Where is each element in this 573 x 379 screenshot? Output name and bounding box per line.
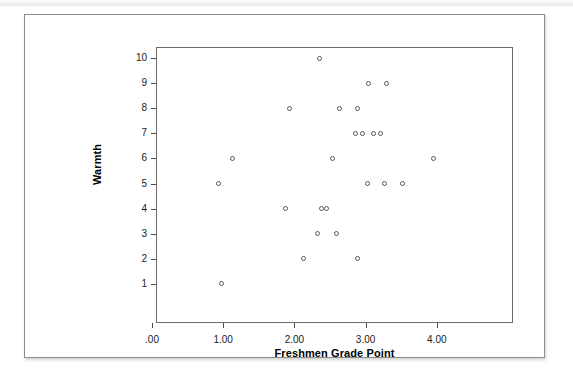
y-tick-mark: [151, 209, 156, 210]
scatter-point: [337, 106, 342, 111]
scatter-point: [230, 156, 235, 161]
y-tick-mark: [151, 133, 156, 134]
plot-frame: [156, 47, 513, 323]
scatter-point: [384, 81, 389, 86]
y-tick-label-10: 10: [113, 53, 147, 63]
x-tick-mark: [223, 323, 224, 328]
y-tick-label-text: 7: [117, 128, 147, 138]
y-tick-label-text: 9: [117, 78, 147, 88]
x-tick-label-text: 2.00: [285, 334, 304, 345]
figure-card: 12345678910 .001.002.003.004.00 Freshmen…: [24, 14, 545, 358]
x-tick-mark: [437, 323, 438, 328]
scatter-point: [371, 131, 376, 136]
y-tick-label-1: 1: [113, 279, 147, 289]
y-tick-label-7: 7: [113, 128, 147, 138]
y-tick-mark: [151, 108, 156, 109]
y-tick-label-text: 10: [117, 53, 147, 63]
x-tick-label-text: 3.00: [356, 334, 375, 345]
y-tick-label-text: 1: [117, 279, 147, 289]
scatter-point: [317, 56, 322, 61]
scatter-point: [431, 156, 436, 161]
y-axis-title: Warmth: [91, 144, 103, 185]
y-tick-mark: [151, 284, 156, 285]
y-tick-label-text: 5: [117, 179, 147, 189]
x-axis-title: Freshmen Grade Point: [156, 347, 513, 359]
scan-artifact-band: [0, 0, 573, 7]
y-tick-mark: [151, 83, 156, 84]
scatter-point: [216, 181, 221, 186]
x-tick-label-.00: .00: [122, 329, 182, 347]
y-tick-label-9: 9: [113, 78, 147, 88]
y-tick-mark: [151, 259, 156, 260]
x-tick-label-text: 1.00: [213, 334, 232, 345]
screenshot-root: 12345678910 .001.002.003.004.00 Freshmen…: [0, 0, 573, 379]
y-tick-mark: [151, 58, 156, 59]
y-tick-mark: [151, 184, 156, 185]
y-tick-label-text: 2: [117, 254, 147, 264]
y-tick-label-4: 4: [113, 204, 147, 214]
y-tick-label-2: 2: [113, 254, 147, 264]
y-tick-mark: [151, 234, 156, 235]
y-tick-mark: [151, 158, 156, 159]
y-tick-label-text: 3: [117, 229, 147, 239]
x-tick-label-3.00: 3.00: [336, 329, 396, 347]
y-tick-label-6: 6: [113, 153, 147, 163]
x-tick-label-2.00: 2.00: [264, 329, 324, 347]
x-tick-label-text: 4.00: [427, 334, 446, 345]
scatter-point: [366, 81, 371, 86]
scatter-point: [378, 131, 383, 136]
y-tick-label-3: 3: [113, 229, 147, 239]
y-tick-label-text: 4: [117, 204, 147, 214]
x-tick-mark: [152, 323, 153, 328]
x-tick-label-text: .00: [145, 334, 159, 345]
x-tick-label-1.00: 1.00: [193, 329, 253, 347]
y-tick-label-5: 5: [113, 179, 147, 189]
x-tick-mark: [294, 323, 295, 328]
scatter-point: [353, 131, 358, 136]
y-tick-label-8: 8: [113, 103, 147, 113]
x-tick-label-4.00: 4.00: [407, 329, 467, 347]
scatter-point: [283, 206, 288, 211]
x-tick-mark: [366, 323, 367, 328]
y-tick-label-text: 8: [117, 103, 147, 113]
scatter-point: [287, 106, 292, 111]
scatter-point: [355, 106, 360, 111]
scatter-point: [330, 156, 335, 161]
y-tick-label-text: 6: [117, 153, 147, 163]
scatter-point: [315, 231, 320, 236]
